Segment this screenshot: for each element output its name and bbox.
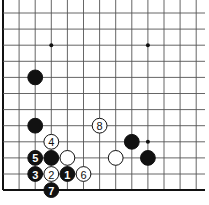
white-stone-6: 6 (76, 167, 91, 182)
white-stone-2: 2 (44, 167, 59, 182)
white-stone-icon (108, 151, 123, 166)
black-stone-icon (44, 151, 59, 166)
black-stone-icon (124, 134, 139, 149)
white-stone (108, 151, 123, 166)
star-point-icon (49, 43, 53, 47)
white-stone-4: 4 (44, 134, 59, 149)
white-stone (60, 151, 75, 166)
black-stone-7: 7 (44, 183, 59, 198)
white-stone-8: 8 (92, 118, 107, 133)
black-stone-icon (28, 118, 43, 133)
white-stone-icon (60, 151, 75, 166)
stones-layer: 84532167 (28, 70, 156, 198)
move-number: 5 (32, 152, 38, 164)
black-stone (124, 134, 139, 149)
move-number: 1 (64, 169, 70, 181)
black-stone-3: 3 (28, 167, 43, 182)
black-stone (44, 151, 59, 166)
black-stone-icon (141, 151, 156, 166)
move-number: 6 (80, 169, 86, 181)
black-stone (28, 118, 43, 133)
black-stone (28, 70, 43, 85)
go-board: 84532167 (0, 0, 209, 205)
move-number: 7 (48, 185, 54, 197)
move-number: 4 (48, 136, 54, 148)
black-stone (141, 151, 156, 166)
move-number: 2 (48, 169, 54, 181)
black-stone-1: 1 (60, 167, 75, 182)
move-number: 8 (97, 120, 103, 132)
move-number: 3 (32, 169, 38, 181)
star-point-icon (146, 140, 150, 144)
black-stone-5: 5 (28, 151, 43, 166)
star-point-icon (146, 43, 150, 47)
black-stone-icon (28, 70, 43, 85)
